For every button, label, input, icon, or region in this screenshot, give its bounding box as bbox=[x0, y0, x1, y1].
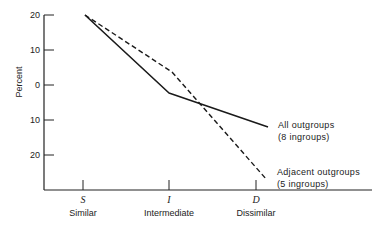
line-chart: 20 10 0 10 20 Percent S I D Similar Inte… bbox=[0, 0, 389, 228]
x-category-label: Similar bbox=[69, 208, 97, 218]
x-category-letter: I bbox=[166, 194, 171, 205]
series-label-adjacent-outgroups-sub: (5 ingroups) bbox=[277, 179, 329, 189]
y-ticks: 20 10 0 10 20 bbox=[30, 10, 54, 160]
y-tick-label: 0 bbox=[35, 80, 40, 90]
series-label-adjacent-outgroups: Adjacent outgroups bbox=[277, 167, 360, 177]
x-category-letter: S bbox=[81, 194, 86, 205]
y-tick-label: 20 bbox=[30, 150, 40, 160]
x-category-letter: D bbox=[251, 194, 260, 205]
series-label-all-outgroups-sub: (8 ingroups) bbox=[278, 132, 330, 142]
y-tick-label: 10 bbox=[30, 115, 40, 125]
series-label-all-outgroups: All outgroups bbox=[278, 120, 335, 130]
y-tick-label: 20 bbox=[30, 10, 40, 20]
x-category-label: Dissimilar bbox=[237, 208, 276, 218]
y-tick-label: 10 bbox=[30, 45, 40, 55]
y-axis-label: Percent bbox=[14, 66, 24, 98]
x-ticks bbox=[83, 180, 256, 190]
series-all-outgroups-line bbox=[85, 15, 268, 127]
x-category-label: Intermediate bbox=[144, 208, 194, 218]
